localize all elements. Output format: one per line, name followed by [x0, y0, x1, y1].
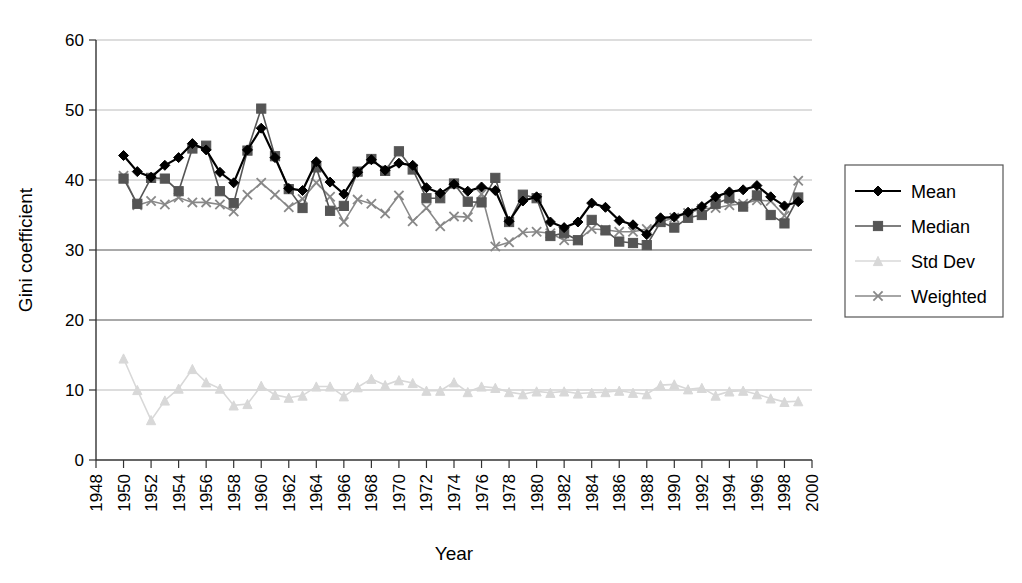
data-point-marker: [381, 381, 390, 390]
x-tick-label-1952: 1952: [142, 474, 161, 512]
y-tick-label-0: 0: [75, 451, 84, 470]
data-point-marker: [353, 383, 362, 392]
x-axis-tick-labels: 1948195019521954195619581960196219641966…: [87, 474, 822, 512]
legend-label: Std Dev: [911, 252, 975, 272]
x-tick-label-1956: 1956: [197, 474, 216, 512]
data-point-marker: [766, 210, 775, 219]
data-point-marker: [422, 203, 431, 212]
legend-label: Weighted: [911, 287, 987, 307]
data-point-marker: [339, 201, 348, 210]
data-point-marker: [160, 174, 169, 183]
x-tick-label-1974: 1974: [445, 474, 464, 512]
y-tick-label-20: 20: [65, 311, 84, 330]
data-point-marker: [670, 223, 679, 232]
data-point-marker: [873, 221, 882, 230]
x-tick-label-1996: 1996: [748, 474, 767, 512]
data-point-marker: [587, 215, 596, 224]
data-point-marker: [381, 209, 390, 218]
data-point-marker: [738, 185, 748, 195]
x-tick-label-1988: 1988: [638, 474, 657, 512]
data-point-marker: [422, 194, 431, 203]
x-tick-label-1994: 1994: [720, 474, 739, 512]
data-point-marker: [394, 158, 404, 168]
data-point-marker: [711, 391, 720, 400]
x-tick-label-1972: 1972: [417, 474, 436, 512]
y-tick-label-60: 60: [65, 31, 84, 50]
y-tick-label-10: 10: [65, 381, 84, 400]
data-point-marker: [477, 198, 486, 207]
data-point-marker: [257, 381, 266, 390]
data-point-marker: [325, 206, 334, 215]
data-point-marker: [752, 191, 761, 200]
legend: MeanMedianStd DevWeighted: [845, 165, 1003, 317]
x-tick-label-1978: 1978: [500, 474, 519, 512]
data-point-marker: [298, 203, 307, 212]
x-tick-label-1966: 1966: [335, 474, 354, 512]
data-point-marker: [642, 241, 651, 250]
data-point-marker: [546, 231, 555, 240]
x-tick-label-1984: 1984: [583, 474, 602, 512]
x-tick-label-1960: 1960: [252, 474, 271, 512]
legend-label: Median: [911, 217, 970, 237]
y-tick-label-50: 50: [65, 101, 84, 120]
data-point-marker: [436, 222, 445, 231]
x-tick-label-1990: 1990: [665, 474, 684, 512]
data-point-marker: [504, 238, 513, 247]
x-axis-title: Year: [435, 543, 474, 564]
data-point-marker: [491, 173, 500, 182]
x-tick-label-1954: 1954: [170, 474, 189, 512]
data-series-layer: [119, 104, 804, 425]
data-point-marker: [215, 187, 224, 196]
data-point-marker: [188, 364, 197, 373]
data-point-marker: [780, 219, 789, 228]
data-point-marker: [119, 174, 128, 183]
data-point-marker: [394, 147, 403, 156]
data-point-marker: [628, 238, 637, 247]
x-tick-label-2000: 2000: [803, 474, 822, 512]
data-point-marker: [367, 374, 376, 383]
chart-canvas: 0102030405060 19481950195219541956195819…: [0, 0, 1022, 583]
x-tick-label-1980: 1980: [528, 474, 547, 512]
x-tick-label-1976: 1976: [473, 474, 492, 512]
x-tick-label-1950: 1950: [115, 474, 134, 512]
axes: [89, 40, 812, 468]
x-tick-label-1982: 1982: [555, 474, 574, 512]
data-point-marker: [463, 197, 472, 206]
x-tick-label-1968: 1968: [362, 474, 381, 512]
gini-coefficient-chart: 0102030405060 19481950195219541956195819…: [0, 0, 1022, 583]
x-tick-label-1962: 1962: [280, 474, 299, 512]
y-tick-label-40: 40: [65, 171, 84, 190]
x-tick-label-1998: 1998: [775, 474, 794, 512]
x-tick-label-1986: 1986: [610, 474, 629, 512]
series-mean: [119, 123, 804, 239]
data-point-marker: [229, 207, 238, 216]
y-axis-tick-labels: 0102030405060: [65, 31, 84, 470]
data-point-marker: [133, 199, 142, 208]
data-point-marker: [243, 190, 252, 199]
x-tick-label-1992: 1992: [693, 474, 712, 512]
data-point-marker: [739, 202, 748, 211]
data-point-marker: [615, 237, 624, 246]
series-median: [119, 104, 803, 250]
data-point-marker: [601, 226, 610, 235]
data-point-marker: [229, 199, 238, 208]
series-std-dev: [119, 354, 803, 425]
data-point-marker: [339, 217, 348, 226]
y-axis-title: Gini coefficient: [15, 187, 36, 312]
data-point-marker: [394, 191, 403, 200]
data-point-marker: [284, 203, 293, 212]
data-point-marker: [408, 217, 417, 226]
x-tick-label-1964: 1964: [307, 474, 326, 512]
data-point-marker: [794, 176, 803, 185]
data-point-marker: [215, 384, 224, 393]
legend-label: Mean: [911, 182, 956, 202]
series-line: [124, 359, 799, 421]
data-point-marker: [367, 199, 376, 208]
data-point-marker: [257, 104, 266, 113]
data-point-marker: [270, 190, 279, 199]
x-tick-label-1948: 1948: [87, 474, 106, 512]
data-point-marker: [449, 378, 458, 387]
x-tick-label-1970: 1970: [390, 474, 409, 512]
data-point-marker: [119, 354, 128, 363]
y-tick-label-30: 30: [65, 241, 84, 260]
